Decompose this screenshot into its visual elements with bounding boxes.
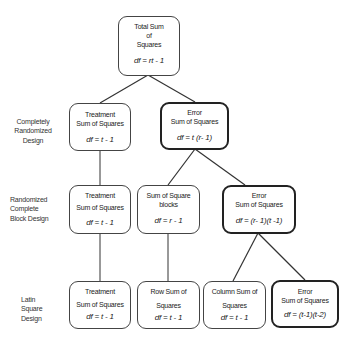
node-text: Sum of Squares xyxy=(273,297,337,306)
node-text: Sum of Square xyxy=(138,192,199,201)
node-text: Treatment xyxy=(70,111,130,120)
node-df: df = (r- 1)(t -1) xyxy=(224,216,294,226)
node-text: Sum of Squares xyxy=(70,204,130,213)
row-label-line: Latin xyxy=(21,295,51,304)
node-df: df = (t-1)(t-2) xyxy=(273,310,337,320)
node-total-sum-of-squares: Total Sum of Squares df = rt - 1 xyxy=(118,16,180,76)
row-label-line: Randomized xyxy=(10,195,60,204)
edge-rcbd-error-lsd-error xyxy=(258,233,305,280)
node-rcbd-treatment: Treatment Sum of Squares df = t - 1 xyxy=(69,185,131,234)
node-text: Squares xyxy=(138,302,199,311)
node-df: df = t - 1 xyxy=(70,135,130,145)
node-lsd-row: Row Sum of Squares df = t - 1 xyxy=(137,281,200,329)
node-text: Error xyxy=(273,288,337,297)
node-text: Sum of Squares xyxy=(224,201,294,210)
row-label-line: Completely xyxy=(8,117,58,126)
row-label-line: Square xyxy=(21,304,51,313)
row-label-lsd: Latin Square Design xyxy=(21,295,51,323)
node-text: Sum of Squares xyxy=(162,118,227,127)
node-text: Squares xyxy=(119,41,179,50)
node-text: Error xyxy=(162,109,227,118)
row-label-line: Randomized xyxy=(8,126,58,135)
edge-total-crd-error xyxy=(148,75,195,102)
node-text: Squares xyxy=(204,302,265,311)
row-label-line: Complete xyxy=(10,204,60,213)
node-crd-treatment: Treatment Sum of Squares df = t - 1 xyxy=(69,103,131,151)
edge-rcbd-error-lsd-column xyxy=(233,233,258,281)
node-text: Column Sum of xyxy=(204,288,265,297)
node-text: Error xyxy=(224,192,294,201)
node-df: df = t (r- 1) xyxy=(162,133,227,143)
node-df: df = t - 1 xyxy=(70,312,130,322)
node-crd-error: Error Sum of Squares df = t (r- 1) xyxy=(160,102,229,150)
node-text: of xyxy=(119,32,179,41)
node-df: df = t - 1 xyxy=(70,218,130,228)
node-text: Treatment xyxy=(70,288,130,297)
node-text: Total Sum xyxy=(119,23,179,32)
node-df: df = r - 1 xyxy=(138,216,199,226)
edge-total-crd-treatment xyxy=(100,75,148,103)
row-label-rcbd: Randomized Complete Block Design xyxy=(10,195,60,223)
row-label-line: Design xyxy=(8,136,58,145)
row-label-line: Block Design xyxy=(10,214,60,223)
node-df: df = rt - 1 xyxy=(119,56,179,66)
node-rcbd-error: Error Sum of Squares df = (r- 1)(t -1) xyxy=(222,185,296,234)
node-text: Treatment xyxy=(70,192,130,201)
node-lsd-error: Error Sum of Squares df = (t-1)(t-2) xyxy=(271,280,339,328)
node-text: blocks xyxy=(138,201,199,210)
node-text: Sum of Squares xyxy=(70,120,130,129)
node-lsd-column: Column Sum of Squares df = t - 1 xyxy=(203,281,266,329)
edge-crd-error-rcbd-error xyxy=(195,149,245,185)
node-text: Sum of Squares xyxy=(70,301,130,310)
node-text: Row Sum of xyxy=(138,288,199,297)
edge-crd-error-rcbd-blocks xyxy=(168,149,195,185)
row-label-crd: Completely Randomized Design xyxy=(8,117,58,145)
node-lsd-treatment: Treatment Sum of Squares df = t - 1 xyxy=(69,281,131,329)
row-label-line: Design xyxy=(21,314,51,323)
node-df: df = t - 1 xyxy=(204,313,265,323)
node-df: df = t - 1 xyxy=(138,313,199,323)
node-rcbd-blocks: Sum of Square blocks df = r - 1 xyxy=(137,185,200,234)
